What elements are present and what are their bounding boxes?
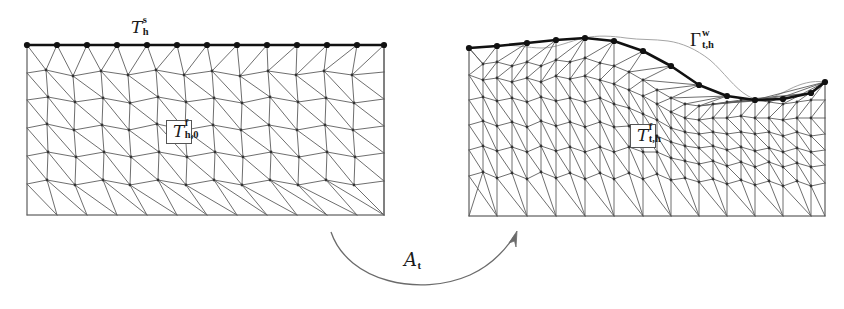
left-mesh-inner-superscript: f (185, 118, 189, 129)
left-top-boundary-label: Tsh (131, 17, 142, 37)
right-mesh-inner-label: Tft,h (630, 124, 656, 148)
left-mesh-group (24, 42, 387, 215)
right-top-boundary-superscript: w (702, 27, 710, 38)
right-mesh-inner-subscript: t,h (649, 134, 661, 145)
right-mesh-inner-symbol: T (637, 125, 648, 145)
map-arrow-head (509, 231, 517, 247)
right-top-boundary-subscript: t,h (702, 39, 714, 50)
left-top-boundary-superscript: s (143, 14, 147, 25)
mesh-deformation-figure: Tsh Tfh,0 Γwt,h Tft,h At (0, 0, 844, 309)
right-top-boundary-label: Γwt,h (690, 29, 701, 51)
left-mesh-inner-label: Tfh,0 (166, 120, 192, 144)
map-arrow-symbol: A (404, 249, 417, 270)
left-top-boundary-symbol: T (131, 17, 142, 37)
map-arrow-group (331, 231, 517, 285)
left-top-boundary-subscript: h (143, 26, 149, 37)
left-mesh-inner-symbol: T (173, 121, 184, 141)
left-mesh-inner-subscript: h,0 (185, 130, 199, 141)
map-arrow-label: At (404, 249, 417, 270)
map-arrow-curve (331, 232, 515, 285)
right-mesh-inner-superscript: f (649, 122, 653, 133)
right-top-boundary-symbol: Γ (690, 29, 701, 50)
map-arrow-subscript: t (418, 260, 422, 271)
figure-canvas (0, 0, 844, 309)
